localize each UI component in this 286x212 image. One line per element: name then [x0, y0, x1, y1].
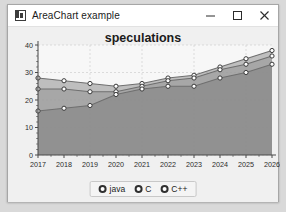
- area-chart-svg: 010203040 201720182019202020212022202320…: [8, 27, 280, 179]
- x-tick-label: 2021: [134, 160, 150, 169]
- y-tick-label: 20: [25, 96, 33, 105]
- app-chart-icon: [15, 10, 26, 21]
- window-title-bar: AreaChart example: [8, 5, 278, 27]
- minimize-button[interactable]: [197, 5, 224, 26]
- x-tick-label: 2019: [82, 160, 98, 169]
- y-tick-label: 0: [29, 151, 33, 160]
- legend-label: C++: [171, 184, 187, 194]
- chart-container: speculations 010203040 20172018201920202…: [8, 27, 278, 202]
- legend-marker-icon: [134, 185, 142, 193]
- x-tick-label: 2026: [264, 160, 280, 169]
- legend-label: C: [145, 184, 151, 194]
- x-tick-label: 2020: [108, 160, 124, 169]
- x-tick-label: 2017: [30, 160, 46, 169]
- x-tick-label: 2023: [186, 160, 202, 169]
- x-tick-label: 2025: [238, 160, 254, 169]
- plot-area: 010203040 201720182019202020212022202320…: [8, 27, 280, 179]
- x-tick-label: 2018: [56, 160, 72, 169]
- window-title: AreaChart example: [32, 10, 197, 21]
- y-tick-label: 10: [25, 123, 33, 132]
- legend-marker-icon: [99, 185, 107, 193]
- y-tick-label: 30: [25, 68, 33, 77]
- x-tick-labels: 2017201820192020202120222023202420252026: [30, 160, 280, 169]
- minimize-icon: [205, 10, 216, 21]
- legend-marker-icon: [160, 185, 168, 193]
- x-tick-label: 2022: [160, 160, 176, 169]
- maximize-icon: [232, 10, 243, 21]
- legend-item-java[interactable]: java: [99, 184, 126, 194]
- close-button[interactable]: [251, 5, 278, 26]
- y-tick-labels: 010203040: [25, 41, 33, 160]
- maximize-button[interactable]: [224, 5, 251, 26]
- close-icon: [259, 10, 270, 21]
- application-window: AreaChart example speculations: [7, 4, 279, 202]
- legend-item-cpp[interactable]: C++: [160, 184, 187, 194]
- chart-legend: java C C++: [90, 181, 197, 197]
- y-tick-label: 40: [25, 41, 33, 50]
- x-tick-label: 2024: [212, 160, 228, 169]
- legend-item-c[interactable]: C: [134, 184, 151, 194]
- legend-label: java: [110, 184, 126, 194]
